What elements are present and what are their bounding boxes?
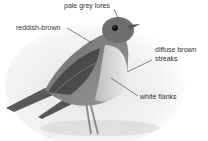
label-streaks: streaks <box>155 55 178 63</box>
label-diffuse-brown: diffuse brown <box>155 46 197 54</box>
bird-illustration <box>0 0 208 141</box>
label-white-flanks: white flanks <box>140 93 177 101</box>
label-reddish-brown: reddish-brown <box>16 24 60 32</box>
label-pale-grey-lores: pale grey lores <box>64 2 110 10</box>
annotated-bird-figure: pale grey lores reddish-brown diffuse br… <box>0 0 208 141</box>
